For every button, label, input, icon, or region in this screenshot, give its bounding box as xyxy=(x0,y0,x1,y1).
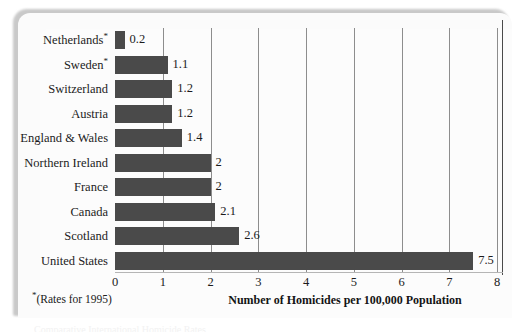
bar-row: 7.5 xyxy=(115,249,497,274)
bar-row: 2 xyxy=(115,151,497,176)
category-label: United States xyxy=(0,252,108,270)
category-label: Sweden* xyxy=(0,56,108,74)
bar xyxy=(115,227,239,245)
category-label-text: England & Wales xyxy=(20,131,108,145)
plot-area: 0.21.11.21.21.4222.12.67.5 xyxy=(115,28,497,273)
bar-value-label: 2.1 xyxy=(220,202,236,220)
x-tick-label-4: 4 xyxy=(296,275,316,290)
bar xyxy=(115,105,172,123)
x-tick-label-1: 1 xyxy=(153,275,173,290)
bar-value-label: 7.5 xyxy=(478,251,494,269)
category-label-text: Northern Ireland xyxy=(24,156,108,170)
bar xyxy=(115,178,211,196)
category-label-text: France xyxy=(74,180,108,194)
x-axis-line xyxy=(115,272,503,273)
bar-row: 1.2 xyxy=(115,77,497,102)
x-tick-label-6: 6 xyxy=(392,275,412,290)
bar xyxy=(115,31,125,49)
x-tick-label-3: 3 xyxy=(248,275,268,290)
bar-value-label: 0.2 xyxy=(130,30,146,48)
bar xyxy=(115,129,182,147)
bar-value-label: 2.6 xyxy=(244,226,260,244)
x-axis-title: Number of Homicides per 100,000 Populati… xyxy=(190,293,500,308)
category-label: Northern Ireland xyxy=(0,154,108,172)
bar-row: 2.1 xyxy=(115,200,497,225)
bar xyxy=(115,203,215,221)
bar-value-label: 1.2 xyxy=(177,104,193,122)
bar-value-label: 1.4 xyxy=(187,128,203,146)
x-tick-label-0: 0 xyxy=(105,275,125,290)
category-label: Switzerland xyxy=(0,80,108,98)
category-label-text: Canada xyxy=(71,205,108,219)
bar-value-label: 1.1 xyxy=(173,55,189,73)
category-label-text: United States xyxy=(41,254,108,268)
bar-value-label: 2 xyxy=(216,177,222,195)
bar xyxy=(115,252,473,270)
category-label: Netherlands* xyxy=(0,31,108,49)
gridline-8 xyxy=(497,28,498,273)
bar-row: 1.2 xyxy=(115,102,497,127)
bar-value-label: 1.2 xyxy=(177,79,193,97)
category-label: England & Wales xyxy=(0,129,108,147)
category-label: Austria xyxy=(0,105,108,123)
bar-row: 0.2 xyxy=(115,28,497,53)
category-label-asterisk: * xyxy=(104,55,109,65)
category-axis-labels: Netherlands*Sweden*SwitzerlandAustriaEng… xyxy=(0,28,108,273)
category-label-text: Sweden xyxy=(64,58,104,72)
x-tick-label-2: 2 xyxy=(201,275,221,290)
cut-off-caption: Comparative International Homicide Rates xyxy=(34,324,334,332)
bar xyxy=(115,80,172,98)
category-label: France xyxy=(0,178,108,196)
category-label: Scotland xyxy=(0,227,108,245)
bar xyxy=(115,56,168,74)
category-label-text: Austria xyxy=(71,107,108,121)
x-tick-label-7: 7 xyxy=(439,275,459,290)
bar-row: 2.6 xyxy=(115,224,497,249)
bar-value-label: 2 xyxy=(216,153,222,171)
category-label-text: Scotland xyxy=(64,229,108,243)
bar xyxy=(115,154,211,172)
category-label-text: Netherlands xyxy=(43,33,103,47)
plot-right-border xyxy=(502,20,503,275)
x-tick-label-5: 5 xyxy=(344,275,364,290)
category-label: Canada xyxy=(0,203,108,221)
bar-row: 2 xyxy=(115,175,497,200)
x-tick-label-8: 8 xyxy=(487,275,507,290)
category-label-text: Switzerland xyxy=(48,82,108,96)
chart-footnote: *(Rates for 1995) xyxy=(32,293,112,305)
category-label-asterisk: * xyxy=(104,31,109,41)
chart-figure: 0.21.11.21.21.4222.12.67.5 Netherlands*S… xyxy=(0,0,521,332)
bar-row: 1.4 xyxy=(115,126,497,151)
bar-row: 1.1 xyxy=(115,53,497,78)
footnote-text: (Rates for 1995) xyxy=(37,293,112,305)
